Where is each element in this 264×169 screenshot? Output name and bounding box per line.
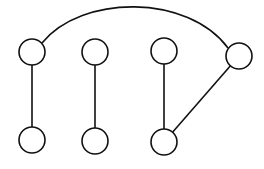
graph-diagram <box>0 0 264 169</box>
nodes-layer <box>19 38 252 155</box>
node-E <box>19 127 45 153</box>
edge-A-D <box>42 7 228 48</box>
node-A <box>19 39 45 65</box>
node-D <box>226 43 252 69</box>
node-F <box>82 128 108 154</box>
edge-G-D <box>173 66 231 132</box>
edges-layer <box>32 7 230 132</box>
node-C <box>151 38 177 64</box>
node-G <box>151 129 177 155</box>
node-B <box>82 39 108 65</box>
